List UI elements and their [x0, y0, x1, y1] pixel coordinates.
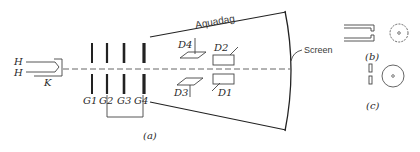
plate-d3-label: D3 — [173, 87, 188, 98]
grid-2-label: G2 — [99, 95, 113, 106]
aquadag-label: Aquadag — [194, 13, 235, 31]
panel-c-aperture-detail: (c) — [366, 64, 404, 111]
panel-b-label: (b) — [365, 51, 379, 62]
panel-b-end-view-inner — [398, 32, 401, 35]
grid-3-label: G3 — [117, 95, 131, 106]
screen-label: Screen — [304, 45, 333, 55]
heater-wire — [26, 62, 59, 72]
heater-label-top: H — [13, 56, 23, 67]
plate-d3 — [177, 78, 203, 85]
plate-d1-label: D1 — [217, 87, 232, 98]
crt-diagram: H H K G1 G2 G3 G4 Aquadag Screen D4 D2 D… — [0, 0, 420, 152]
screen-leader — [291, 50, 302, 61]
grid-4-label: G4 — [134, 95, 148, 106]
panel-c-aperture-top — [369, 64, 372, 72]
aquadag-bottom-wall — [150, 102, 286, 130]
panel-a-label: (a) — [143, 130, 157, 141]
screen-face — [285, 11, 291, 131]
plate-d4 — [180, 52, 206, 58]
panel-c-end-view-outer — [382, 65, 404, 87]
plate-d2 — [213, 55, 234, 65]
plate-d2-lead — [230, 47, 238, 55]
plate-d4-label: D4 — [177, 39, 192, 50]
grid-electrodes: G1 G2 G3 G4 — [83, 43, 148, 117]
heater-label-bottom: H — [13, 67, 23, 78]
panel-c-end-view-inner — [392, 75, 395, 78]
panel-b-cylinder-top — [344, 25, 374, 31]
panel-b-cylinder-bottom — [344, 35, 374, 41]
grid-1-label: G1 — [83, 95, 97, 106]
panel-c-label: (c) — [366, 100, 380, 111]
deflection-plates: D4 D2 D3 D1 — [173, 38, 238, 98]
panel-b-end-view-outer — [390, 24, 408, 42]
plate-d2-label: D2 — [213, 42, 228, 53]
plate-d1 — [213, 74, 234, 84]
panel-c-aperture-bottom — [369, 76, 372, 84]
cathode-label: K — [43, 77, 52, 88]
cathode-assembly: H H K — [13, 56, 62, 88]
panel-b-electron-gun-detail: (b) — [344, 24, 408, 62]
